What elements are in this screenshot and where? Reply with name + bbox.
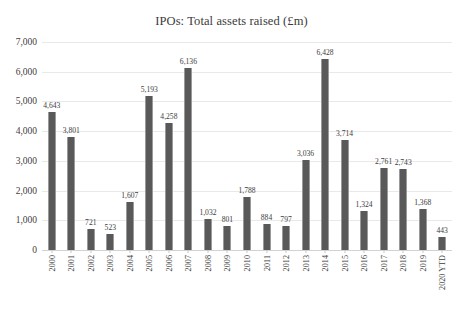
bar[interactable]: [204, 219, 212, 250]
bar-value-label: 1,788: [238, 186, 255, 195]
x-axis-tick-label: 2009: [223, 255, 232, 271]
x-axis-tick-label: 2011: [262, 255, 271, 271]
y-axis-tick-label: 5,000: [16, 96, 37, 106]
x-axis-tick-label: 2019: [418, 255, 427, 271]
x-axis-tickmark: [442, 250, 443, 253]
bar-value-label: 4,258: [160, 112, 177, 121]
bar-slot: 2,7432018: [393, 42, 413, 250]
y-axis-tick-label: 4,000: [16, 126, 37, 136]
x-axis-tickmark: [227, 250, 228, 253]
chart-container: IPOs: Total assets raised (£m) 01,0002,0…: [0, 0, 463, 323]
bar[interactable]: [360, 211, 368, 250]
bar-value-label: 801: [222, 215, 233, 224]
x-axis-tick-label: 2000: [47, 255, 56, 271]
bar-slot: 1,3242016: [354, 42, 374, 250]
bar-value-label: 3,801: [63, 126, 80, 135]
bar-slot: 3,7142015: [335, 42, 355, 250]
bar[interactable]: [302, 160, 310, 250]
x-axis-tick-label: 2013: [301, 255, 310, 271]
x-axis-tick-label: 2001: [67, 255, 76, 271]
bar-value-label: 4,643: [43, 101, 60, 110]
x-axis-tickmark: [149, 250, 150, 253]
bar[interactable]: [67, 137, 75, 250]
y-axis-tick-label: 7,000: [16, 37, 37, 47]
bar[interactable]: [419, 209, 427, 250]
bar[interactable]: [282, 226, 290, 250]
bar[interactable]: [380, 168, 388, 250]
plot-area: 01,0002,0003,0004,0005,0006,0007,000 4,6…: [42, 42, 452, 250]
bar-slot: 1,7882010: [237, 42, 257, 250]
x-axis-tick-label: 2008: [203, 255, 212, 271]
bar-slot: 1,6072004: [120, 42, 140, 250]
x-axis-tick-label: 2004: [125, 255, 134, 271]
bar-slot: 4432020 YTD: [432, 42, 452, 250]
bar-slot: 1,0322008: [198, 42, 218, 250]
y-axis-tick-label: 0: [32, 245, 37, 255]
x-axis-tick-label: 2017: [379, 255, 388, 271]
bar-slot: 6,4282014: [315, 42, 335, 250]
bar[interactable]: [106, 234, 114, 250]
bar[interactable]: [223, 226, 231, 250]
x-axis-tickmark: [71, 250, 72, 253]
bar[interactable]: [126, 202, 134, 250]
bar-value-label: 797: [280, 215, 291, 224]
bar-value-label: 2,743: [395, 158, 412, 167]
y-axis-tick-label: 3,000: [16, 156, 37, 166]
bar[interactable]: [321, 59, 329, 250]
x-axis-tick-label: 2002: [86, 255, 95, 271]
bar-slot: 8012009: [218, 42, 238, 250]
x-axis-tickmark: [422, 250, 423, 253]
x-axis-tickmark: [246, 250, 247, 253]
bar[interactable]: [438, 237, 446, 250]
x-axis-tickmark: [90, 250, 91, 253]
bar-slot: 2,7612017: [374, 42, 394, 250]
bar-value-label: 1,324: [356, 200, 373, 209]
y-axis-tick-label: 6,000: [16, 67, 37, 77]
bar-slot: 7212002: [81, 42, 101, 250]
bar-value-label: 6,428: [317, 48, 334, 57]
x-axis-tickmark: [266, 250, 267, 253]
bar-value-label: 1,607: [121, 191, 138, 200]
x-axis-tick-label: 2016: [360, 255, 369, 271]
bar-slot: 1,3682019: [413, 42, 433, 250]
bar-value-label: 2,761: [375, 157, 392, 166]
x-axis-tick-label: 2012: [282, 255, 291, 271]
bar-value-label: 6,136: [180, 57, 197, 66]
y-axis-tick-label: 2,000: [16, 186, 37, 196]
x-axis-tickmark: [403, 250, 404, 253]
x-axis-tickmark: [325, 250, 326, 253]
bar-value-label: 3,036: [297, 149, 314, 158]
x-axis-tick-label: 2020 YTD: [438, 255, 447, 290]
x-axis-tickmark: [364, 250, 365, 253]
x-axis-tickmark: [168, 250, 169, 253]
y-axis-tick-label: 1,000: [16, 215, 37, 225]
bar[interactable]: [165, 123, 173, 250]
bar[interactable]: [184, 68, 192, 250]
bar-slot: 3,0362013: [296, 42, 316, 250]
bar-value-label: 3,714: [336, 129, 353, 138]
bar-slot: 7972012: [276, 42, 296, 250]
bar[interactable]: [145, 96, 153, 250]
bar[interactable]: [87, 229, 95, 250]
x-axis-tick-label: 2014: [321, 255, 330, 271]
bar-slot: 5,1932005: [140, 42, 160, 250]
bar-slot: 5232003: [101, 42, 121, 250]
chart-title: IPOs: Total assets raised (£m): [0, 14, 463, 29]
x-axis-tick-label: 2007: [184, 255, 193, 271]
x-axis-tick-label: 2005: [145, 255, 154, 271]
bar-value-label: 5,193: [141, 85, 158, 94]
x-axis-tick-label: 2003: [106, 255, 115, 271]
bar[interactable]: [243, 197, 251, 250]
x-axis-tick-label: 2015: [340, 255, 349, 271]
bar-slot: 4,6432000: [42, 42, 62, 250]
bar[interactable]: [399, 169, 407, 251]
x-axis-tickmark: [305, 250, 306, 253]
bar-value-label: 1,368: [414, 198, 431, 207]
bar[interactable]: [341, 140, 349, 250]
bar[interactable]: [263, 224, 271, 250]
x-axis-tickmark: [129, 250, 130, 253]
x-axis-tick-label: 2006: [164, 255, 173, 271]
bar-value-label: 443: [437, 226, 448, 235]
x-axis-tickmark: [344, 250, 345, 253]
bar[interactable]: [48, 112, 56, 250]
